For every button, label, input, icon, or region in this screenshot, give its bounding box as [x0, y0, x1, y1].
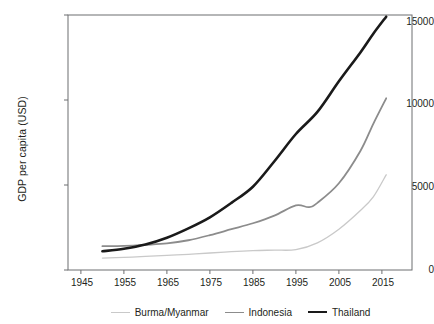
legend-label-indonesia: Indonesia — [249, 307, 292, 318]
legend-entry-thailand: Thailand — [308, 307, 370, 318]
legend-line-swatch-indonesia — [225, 312, 244, 313]
x-tick-marks — [81, 270, 382, 274]
y-tick-marks — [64, 15, 68, 270]
legend-line-swatch-burma-myanmar — [111, 312, 130, 313]
legend-label-burma-myanmar: Burma/Myanmar — [135, 307, 209, 318]
series-line-thailand — [102, 17, 386, 252]
series-layer — [102, 17, 386, 258]
legend-entry-burma-myanmar: Burma/Myanmar — [111, 307, 209, 318]
legend-line-swatch-thailand — [308, 311, 327, 313]
legend-entry-indonesia: Indonesia — [225, 307, 292, 318]
gdp-per-capita-line-chart: GDP per capita (USD) 15000 10000 5000 0 … — [0, 0, 434, 324]
series-line-indonesia — [102, 98, 386, 246]
legend-label-thailand: Thailand — [332, 307, 370, 318]
chart-legend: Burma/Myanmar Indonesia Thailand — [68, 303, 413, 321]
plot-area — [0, 0, 434, 324]
